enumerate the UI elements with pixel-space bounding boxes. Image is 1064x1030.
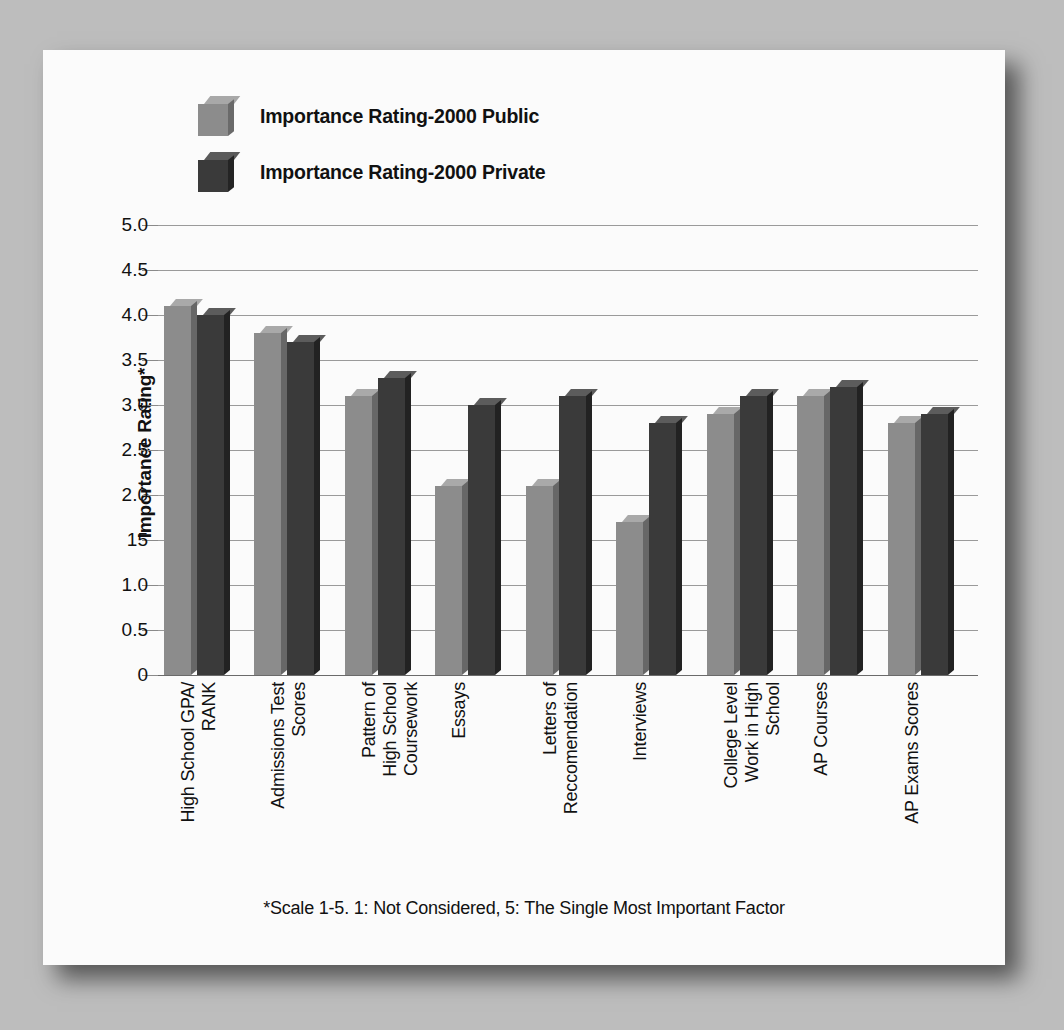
bar-group xyxy=(435,398,525,675)
y-tick-label: 3.5 xyxy=(122,349,148,371)
y-tick-label: 2.0 xyxy=(122,484,148,506)
y-tick-label: 2.5 xyxy=(122,439,148,461)
bar-public[interactable] xyxy=(345,389,372,675)
x-label-cell: Interviews xyxy=(616,682,706,932)
y-tick-label: 4.5 xyxy=(122,259,148,281)
bar-public[interactable] xyxy=(616,515,643,675)
bar-public[interactable] xyxy=(526,479,553,675)
y-tick-label: 5.0 xyxy=(122,214,148,236)
bar-group xyxy=(254,326,344,675)
bar-public[interactable] xyxy=(707,407,734,675)
x-label-cell: AP Courses xyxy=(797,682,887,932)
bar-private[interactable] xyxy=(378,371,405,675)
x-label-cell: College Level Work in High School xyxy=(707,682,797,932)
gridline xyxy=(158,675,978,676)
x-axis-label: Essays xyxy=(449,682,470,739)
bar-private[interactable] xyxy=(830,380,857,675)
legend-item-private: Importance Rating-2000 Private xyxy=(198,144,546,200)
legend-swatch-public-icon xyxy=(198,96,234,136)
bar-private[interactable] xyxy=(559,389,586,675)
x-label-cell: AP Exams Scores xyxy=(888,682,978,932)
bar-group xyxy=(797,380,887,675)
x-label-cell: Admissions Test Scores xyxy=(254,682,344,932)
y-tick-label: 0.5 xyxy=(122,619,148,641)
bar-group xyxy=(616,416,706,675)
legend-swatch-private-icon xyxy=(198,152,234,192)
bar-private[interactable] xyxy=(649,416,676,675)
x-axis-label: AP Courses xyxy=(811,682,832,776)
legend-label-private: Importance Rating-2000 Private xyxy=(260,161,546,184)
bar-public[interactable] xyxy=(435,479,462,675)
legend-item-public: Importance Rating-2000 Public xyxy=(198,88,546,144)
y-tick-label: 15 xyxy=(127,529,148,551)
bar-private[interactable] xyxy=(921,407,948,675)
bar-private[interactable] xyxy=(197,308,224,675)
bar-private[interactable] xyxy=(740,389,767,675)
x-label-cell: Essays xyxy=(435,682,525,932)
bar-group xyxy=(888,407,978,675)
chart-card: Importance Rating-2000 Public Importance… xyxy=(43,50,1005,965)
y-tick-label: 0 xyxy=(137,664,148,686)
bar-group xyxy=(707,389,797,675)
y-tick-label: 3.0 xyxy=(122,394,148,416)
plot-area: 5.04.54.03.53.02.52.0151.00.50 xyxy=(158,225,978,675)
x-label-cell: Letters of Reccomendation xyxy=(526,682,616,932)
x-axis-label: Letters of Reccomendation xyxy=(540,682,582,814)
bar-groups xyxy=(158,225,978,675)
legend-label-public: Importance Rating-2000 Public xyxy=(260,105,539,128)
x-axis-label: AP Exams Scores xyxy=(902,682,923,824)
chart-footnote: *Scale 1-5. 1: Not Considered, 5: The Si… xyxy=(43,898,1005,919)
bar-public[interactable] xyxy=(254,326,281,675)
y-tick-label: 4.0 xyxy=(122,304,148,326)
bar-public[interactable] xyxy=(164,299,191,675)
x-axis-labels: High School GPA/ RANKAdmissions Test Sco… xyxy=(158,682,978,932)
bar-group xyxy=(526,389,616,675)
x-axis-label: Interviews xyxy=(630,682,651,761)
x-axis-label: Pattern of High School Coursework xyxy=(359,682,423,777)
x-axis-label: College Level Work in High School xyxy=(721,682,785,788)
x-label-cell: High School GPA/ RANK xyxy=(164,682,254,932)
bar-private[interactable] xyxy=(468,398,495,675)
bar-public[interactable] xyxy=(797,389,824,675)
bar-group xyxy=(345,371,435,675)
x-label-cell: Pattern of High School Coursework xyxy=(345,682,435,932)
chart-legend: Importance Rating-2000 Public Importance… xyxy=(198,88,546,200)
y-tick-label: 1.0 xyxy=(122,574,148,596)
bar-group xyxy=(164,299,254,675)
x-axis-label: High School GPA/ RANK xyxy=(178,682,220,823)
x-axis-label: Admissions Test Scores xyxy=(268,682,310,809)
bar-private[interactable] xyxy=(287,335,314,675)
bar-public[interactable] xyxy=(888,416,915,675)
